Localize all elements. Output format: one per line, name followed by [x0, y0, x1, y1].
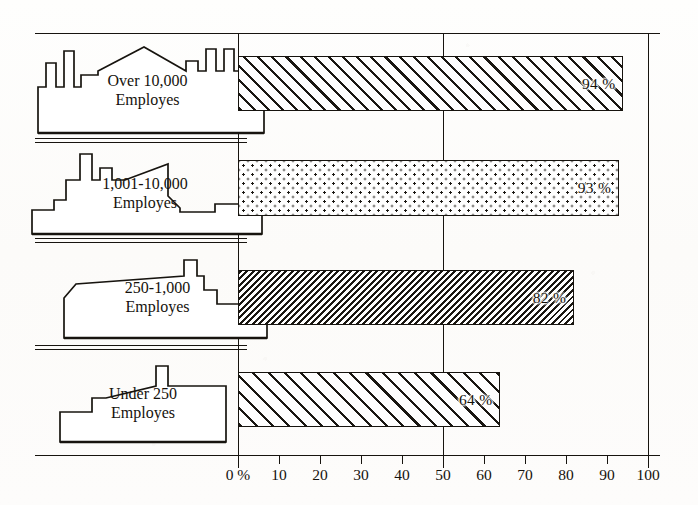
- chart-top-rule: [35, 33, 660, 34]
- bar-value-row-4: 64 %: [459, 391, 493, 409]
- bar-value-row-2: 93 %: [578, 179, 612, 197]
- category-label-row-1: Over 10,000 Employes: [60, 72, 235, 109]
- axis-tick-label-100: 100: [636, 466, 659, 484]
- category-label-row-3: 250-1,000 Employes: [75, 279, 240, 316]
- category-label-line1: Under 250: [109, 385, 177, 402]
- axis-tick-label-70: 70: [517, 466, 533, 484]
- category-label-row-2: 1,001-10,000 Employes: [55, 175, 235, 212]
- category-label-line1: 250-1,000: [125, 279, 190, 296]
- axis-tick-label-40: 40: [394, 466, 410, 484]
- row-separator-1: [35, 138, 247, 143]
- category-label-line2: Employes: [68, 404, 218, 423]
- bar-row-2: 93 %: [238, 160, 619, 216]
- axis-tick-label-60: 60: [476, 466, 492, 484]
- axis-tick-label-20: 20: [312, 466, 328, 484]
- row-separator-2: [35, 238, 247, 243]
- axis-tick-60: [484, 455, 485, 464]
- axis-tick-label-80: 80: [558, 466, 574, 484]
- axis-tick-label-30: 30: [353, 466, 369, 484]
- axis-tick-30: [361, 455, 362, 464]
- bar-row-1: 94 %: [238, 56, 623, 111]
- bar-chart: Over 10,000 Employes 94 % 1,001-10,000 E…: [0, 0, 698, 505]
- category-label-line1: Over 10,000: [108, 72, 188, 89]
- gridline-100: [648, 33, 649, 455]
- axis-tick-90: [607, 455, 608, 464]
- axis-tick-label-10: 10: [271, 466, 287, 484]
- bar-row-3: 82 %: [238, 270, 574, 325]
- axis-tick-70: [525, 455, 526, 464]
- axis-tick-10: [279, 455, 280, 464]
- category-label-line2: Employes: [60, 91, 235, 110]
- axis-tick-label-50: 50: [435, 466, 451, 484]
- axis-tick-80: [566, 455, 567, 464]
- bar-row-4: 64 %: [238, 372, 500, 427]
- category-label-line2: Employes: [75, 298, 240, 317]
- axis-tick-label-0: 0 %: [226, 466, 251, 484]
- bar-value-row-1: 94 %: [582, 75, 616, 93]
- axis-tick-20: [320, 455, 321, 464]
- axis-tick-label-90: 90: [599, 466, 615, 484]
- category-label-line2: Employes: [55, 194, 235, 213]
- axis-tick-40: [402, 455, 403, 464]
- bar-value-row-3: 82 %: [533, 289, 567, 307]
- row-separator-3: [35, 345, 247, 350]
- category-label-line1: 1,001-10,000: [102, 175, 187, 192]
- category-label-row-4: Under 250 Employes: [68, 385, 218, 422]
